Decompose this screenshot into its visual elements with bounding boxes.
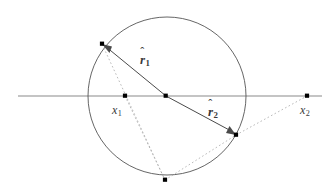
- vector-label-r1: ˆ r 1: [140, 53, 150, 68]
- r1-subscript: 1: [145, 58, 149, 68]
- vector-r2-shaft: [166, 96, 233, 132]
- geometry-diagram: ˆ r 1 ˆ r 2 x1 x2: [0, 0, 330, 191]
- x1-subscript: 1: [118, 109, 122, 118]
- dotted-line-bottom-to-lower-right: [165, 135, 236, 180]
- r1-hat-group: ˆ r: [140, 53, 145, 66]
- x2-subscript: 2: [306, 109, 310, 118]
- r2-subscript: 2: [213, 110, 217, 120]
- x2-base-letter: x: [300, 103, 305, 117]
- vector-r1: [102, 44, 166, 96]
- dotted-line-lower-right-to-x2: [236, 96, 307, 135]
- point-label-x1: x1: [112, 104, 122, 118]
- point-x1: [123, 94, 127, 98]
- r2-hat-accent: ˆ: [208, 99, 212, 111]
- point-lower-right-vertex: [234, 133, 238, 137]
- point-upper-left-vertex: [100, 42, 104, 46]
- x1-base-letter: x: [112, 103, 117, 117]
- point-x2: [305, 94, 309, 98]
- vector-r2: [166, 96, 236, 135]
- vector-label-r2: ˆ r 2: [208, 105, 218, 120]
- diagram-canvas: [0, 0, 330, 191]
- dotted-line-x1-to-bottom: [125, 96, 165, 180]
- point-bottom-vertex: [163, 178, 167, 182]
- point-center: [164, 94, 168, 98]
- point-label-x2: x2: [300, 104, 310, 118]
- r2-hat-group: ˆ r: [208, 105, 213, 118]
- r1-hat-accent: ˆ: [140, 47, 144, 59]
